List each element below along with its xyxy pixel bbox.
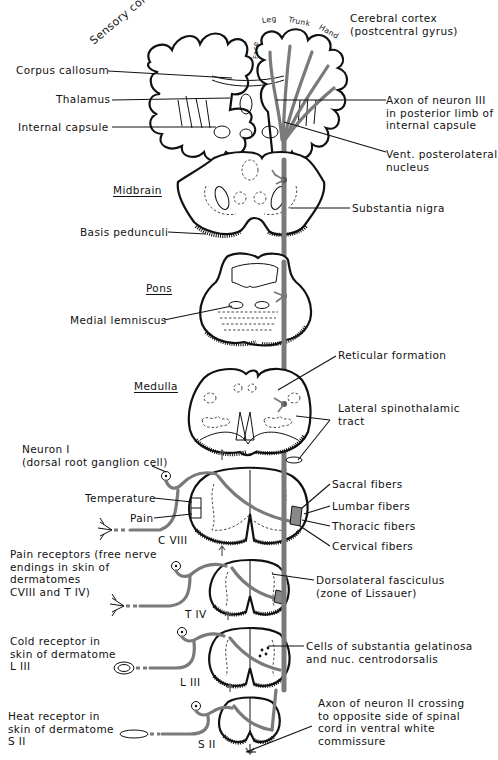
thoracic-fibers-label: Thoracic fibers bbox=[332, 520, 416, 533]
segment-s2-label: S II bbox=[198, 738, 216, 751]
cerebral-cortex-label: Cerebral cortex (postcentral gyrus) bbox=[350, 12, 458, 37]
dorsolateral-fasciculus-label: Dorsolateral fasciculus (zone of Lissaue… bbox=[316, 574, 445, 599]
substantia-gelatinosa-label: Cells of substantia gelatinosa and nuc. … bbox=[306, 640, 473, 665]
neuron-1-label: Neuron I (dorsal root ganglion cell) bbox=[22, 443, 168, 468]
leg-area-label: Leg bbox=[261, 13, 277, 27]
segment-l3-label: L III bbox=[180, 676, 200, 689]
basis-pedunculi-label: Basis pedunculi bbox=[80, 226, 168, 239]
axon-neuron-3-label: Axon of neuron III in posterior limb of … bbox=[386, 94, 494, 132]
segment-c8-label: C VIII bbox=[158, 534, 188, 547]
spinal-cord-t4 bbox=[210, 560, 289, 614]
reticular-formation-label: Reticular formation bbox=[338, 349, 446, 362]
cervical-fibers-label: Cervical fibers bbox=[332, 540, 413, 553]
pons-heading: Pons bbox=[146, 282, 172, 295]
segment-t4-label: T IV bbox=[185, 608, 207, 621]
midbrain-section bbox=[178, 152, 325, 262]
temperature-label: Temperature bbox=[85, 492, 156, 505]
lateral-spinothalamic-label: Lateral spinothalamic tract bbox=[338, 402, 460, 427]
vpl-nucleus-label: Vent. posterolateral nucleus bbox=[386, 148, 498, 173]
corpus-callosum-label: Corpus callosum bbox=[16, 64, 109, 77]
midbrain-heading: Midbrain bbox=[113, 184, 162, 197]
heat-receptor-label: Heat receptor in skin of dermatome S II bbox=[8, 710, 114, 748]
pain-label: Pain bbox=[130, 512, 153, 525]
cold-receptor-label: Cold receptor in skin of dermatome L III bbox=[10, 635, 116, 673]
spinal-cord-c8 bbox=[189, 457, 307, 543]
thalamus-label: Thalamus bbox=[56, 93, 110, 106]
axon-neuron-2-label: Axon of neuron II crossing to opposite s… bbox=[318, 697, 465, 747]
lumbar-fibers-label: Lumbar fibers bbox=[332, 500, 410, 513]
pain-receptors-label: Pain receptors (free nerve endings in sk… bbox=[10, 548, 157, 598]
brain-coronal-section bbox=[148, 29, 347, 160]
face-area-label: Face bbox=[250, 42, 263, 59]
spinal-cord-l3 bbox=[209, 628, 289, 686]
substantia-nigra-label: Substantia nigra bbox=[352, 202, 445, 215]
medial-lemniscus-label: Medial lemniscus bbox=[70, 314, 167, 327]
internal-capsule-label: Internal capsule bbox=[18, 121, 109, 134]
medulla-heading: Medulla bbox=[134, 380, 178, 393]
sacral-fibers-label: Sacral fibers bbox=[332, 478, 403, 491]
